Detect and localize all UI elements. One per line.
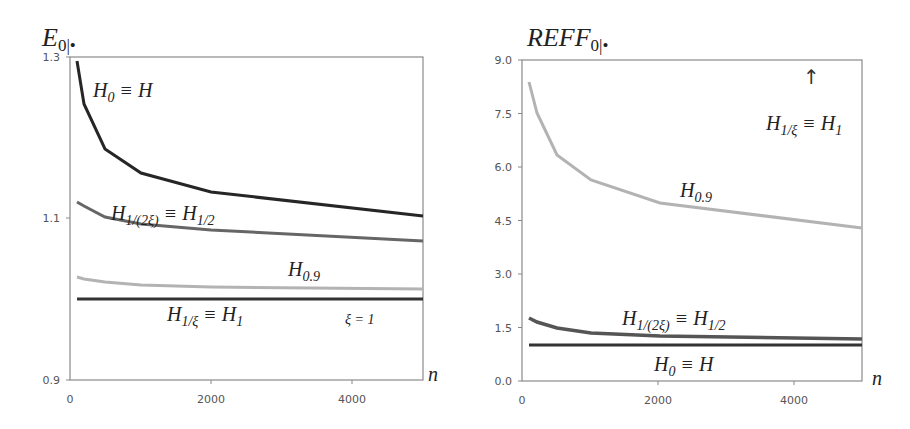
label-h09: H0.9 bbox=[287, 258, 320, 284]
label-xi: ξ = 1 bbox=[345, 312, 374, 327]
chart-title: REFF0|• bbox=[526, 23, 608, 55]
y-tick: 1.1 bbox=[43, 212, 61, 225]
x-tick: 4000 bbox=[780, 394, 808, 407]
y-tick: 1.5 bbox=[495, 322, 513, 335]
label-h1: H1/ξ ≡ H1 bbox=[166, 303, 243, 329]
y-tick: 7.5 bbox=[495, 108, 513, 121]
label-h09: H0.9 bbox=[679, 179, 712, 205]
x-axis-label: n bbox=[872, 367, 882, 389]
label-h0: H0 ≡ H bbox=[653, 353, 715, 379]
x-axis: 0 2000 4000 n bbox=[67, 363, 439, 406]
x-tick: 4000 bbox=[338, 393, 366, 406]
y-axis: 9.0 7.5 6.0 4.5 3.0 1.5 0.0 bbox=[495, 54, 523, 388]
x-tick: 2000 bbox=[644, 394, 672, 407]
y-tick: 0.9 bbox=[43, 374, 61, 387]
series-h09 bbox=[529, 82, 862, 228]
y-tick: 6.0 bbox=[495, 161, 513, 174]
series-h09 bbox=[77, 277, 423, 289]
x-tick: 0 bbox=[67, 393, 74, 406]
label-h-half: H1/(2ξ) ≡ H1/2 bbox=[621, 307, 726, 334]
off-scale-arrow: ↑ bbox=[803, 65, 820, 89]
y-tick: 1.3 bbox=[43, 51, 61, 64]
y-axis: 1.3 1.1 0.9 bbox=[43, 51, 71, 387]
y-tick: 3.0 bbox=[495, 268, 513, 281]
x-tick: 0 bbox=[519, 394, 526, 407]
x-tick: 2000 bbox=[197, 393, 225, 406]
reff-chart: REFF0|• 9.0 7.5 6.0 4.5 3.0 1.5 0.0 0 20… bbox=[455, 0, 910, 429]
y-tick: 4.5 bbox=[495, 215, 513, 228]
label-h0: H0 ≡ H bbox=[92, 79, 154, 105]
y-tick: 9.0 bbox=[495, 54, 513, 67]
x-axis-label: n bbox=[428, 363, 438, 385]
label-h1: H1/ξ ≡ H1 bbox=[765, 112, 842, 138]
efficiency-chart: E0|• 1.3 1.1 0.9 0 2000 4000 n H0 ≡ H H1… bbox=[0, 0, 455, 429]
y-tick: 0.0 bbox=[495, 375, 513, 388]
